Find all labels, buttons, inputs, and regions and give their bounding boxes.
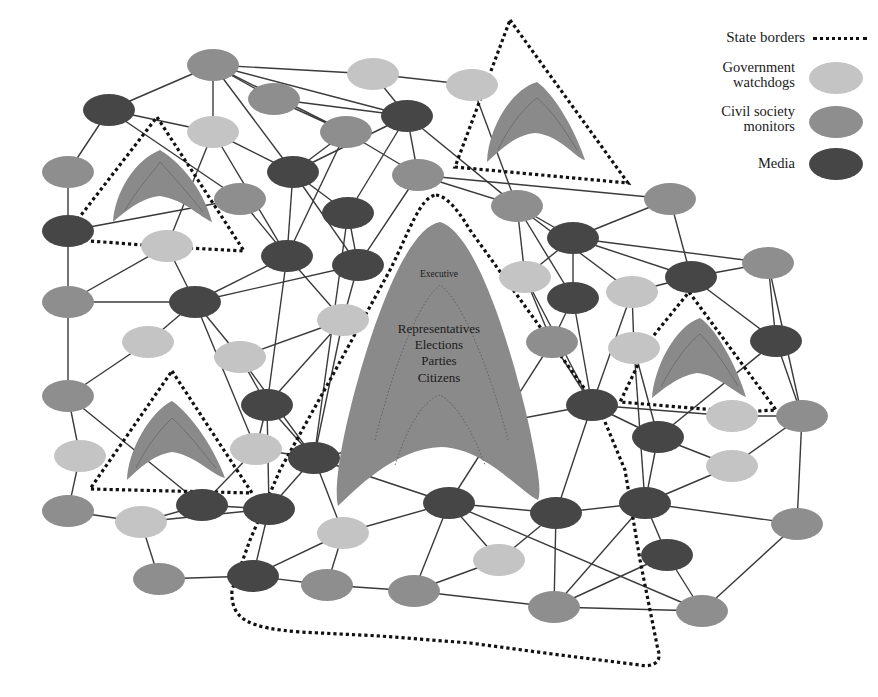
legend: State borders Government watchdogs Civil… [660,28,875,184]
government-watchdog-node [230,433,282,465]
media-node [641,539,693,571]
government-watchdog-node [608,332,660,364]
civil-society-node [676,595,728,627]
media-node [750,325,802,357]
civil-society-node [42,286,94,318]
civil-society-node [528,591,580,623]
government-watchdog-node [347,58,399,90]
legend-label-government-watchdogs: Government watchdogs [723,60,795,90]
civil-society-node [491,190,543,222]
civil-society-node [187,49,239,81]
media-node [267,156,319,188]
media-node [566,389,618,421]
civil-society-node [392,159,444,191]
network-edge [195,302,256,449]
media-node [241,389,293,421]
government-watchdog-node [499,261,551,293]
network-edge [573,238,768,263]
legend-media: Media [660,144,875,184]
legend-government-watchdogs: Government watchdogs [660,56,875,100]
government-watchdog-node [122,326,174,358]
media-node [547,222,599,254]
dotted-line-icon [813,37,867,40]
civil-society-node [771,508,823,540]
civil-society-node [42,156,94,188]
media-node [332,249,384,281]
government-watchdog-node [187,116,239,148]
civil-society-node [776,400,828,432]
network-edge [287,132,346,256]
media-node [261,240,313,272]
government-watchdog-swatch-icon [809,62,863,94]
state-shape-right [652,318,746,398]
media-node [176,489,228,521]
legend-label-civil-society-monitors: Civil society monitors [721,104,795,134]
central-label-executive: Executive [420,269,458,279]
civil-society-node [42,380,94,412]
network-edge [267,256,287,405]
media-node [547,282,599,314]
central-label-representatives: Representatives [398,321,480,336]
civil-society-node [214,183,266,215]
government-watchdog-node [446,69,498,101]
civil-society-node [133,563,185,595]
government-watchdog-node [141,230,193,262]
media-swatch-icon [809,148,863,180]
central-label-elections: Elections [415,337,463,352]
media-node [619,487,671,519]
legend-civil-society-monitors: Civil society monitors [660,100,875,144]
government-watchdog-node [473,544,525,576]
media-node [42,215,94,247]
civil-society-node [644,183,696,215]
state-shape-top-left [113,150,212,222]
network-edge [68,199,240,231]
legend-label-media: Media [758,156,795,171]
media-node [530,497,582,529]
civil-society-node [742,247,794,279]
network-edge [797,416,802,524]
media-node [381,100,433,132]
government-watchdog-node [706,400,758,432]
civil-society-node [301,569,353,601]
legend-label-state-borders: State borders [726,30,805,45]
civil-society-node [42,495,94,527]
legend-state-borders: State borders [660,28,875,56]
government-watchdog-node [317,517,369,549]
media-node [632,421,684,453]
civil-society-swatch-icon [809,106,863,138]
media-node [227,560,279,592]
media-node [665,261,717,293]
government-watchdog-node [706,450,758,482]
government-watchdog-node [54,440,106,472]
government-watchdog-node [606,276,658,308]
media-node [169,286,221,318]
civil-society-node [526,326,578,358]
media-node [288,442,340,474]
network-edge [556,405,592,513]
central-label-parties: Parties [421,353,456,368]
central-label-citizens: Citizens [418,370,461,385]
media-node [423,487,475,519]
media-node [83,94,135,126]
civil-society-node [388,575,440,607]
government-watchdog-node [214,341,266,373]
civil-society-node [248,83,300,115]
civil-society-node [320,116,372,148]
media-node [243,493,295,525]
state-shape-top-right [487,82,585,162]
media-node [322,197,374,229]
network-edge [314,320,343,458]
government-watchdog-node [115,506,167,538]
government-watchdog-node [317,304,369,336]
